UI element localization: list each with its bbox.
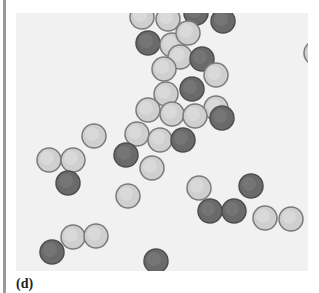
- cell-highlight: [43, 243, 57, 257]
- cell-highlight: [117, 146, 131, 160]
- cell-highlight: [190, 179, 204, 193]
- cell-highlight: [242, 177, 256, 191]
- figure-caption: (d): [16, 276, 33, 292]
- cell-highlight: [256, 209, 270, 223]
- cell-highlight: [64, 151, 78, 165]
- cell-highlight: [183, 80, 197, 94]
- cell-highlight: [87, 227, 101, 241]
- cell-highlight: [186, 107, 200, 121]
- cell-highlight: [179, 24, 193, 38]
- cell-highlight: [128, 125, 142, 139]
- cell-highlight: [171, 48, 185, 62]
- cells-layer: [16, 13, 308, 271]
- cell-highlight: [139, 101, 153, 115]
- cell-highlight: [139, 34, 153, 48]
- cell-highlight: [119, 187, 133, 201]
- cell-highlight: [282, 210, 296, 224]
- cell-highlight: [207, 66, 221, 80]
- cell-highlight: [147, 252, 161, 266]
- cell-highlight: [163, 105, 177, 119]
- cell-highlight: [213, 109, 227, 123]
- cell-highlight: [40, 151, 54, 165]
- micrograph-image: [16, 13, 308, 271]
- page-margin-rule: [3, 0, 6, 293]
- cell-highlight: [85, 127, 99, 141]
- cell-highlight: [201, 202, 215, 216]
- cell-highlight: [174, 131, 188, 145]
- cell-highlight: [64, 228, 78, 242]
- cell-highlight: [155, 60, 169, 74]
- cell-highlight: [151, 131, 165, 145]
- cell-highlight: [143, 159, 157, 173]
- cell-highlight: [157, 85, 171, 99]
- cell-highlight: [59, 174, 73, 188]
- cell-highlight: [225, 202, 239, 216]
- cell-highlight: [193, 50, 207, 64]
